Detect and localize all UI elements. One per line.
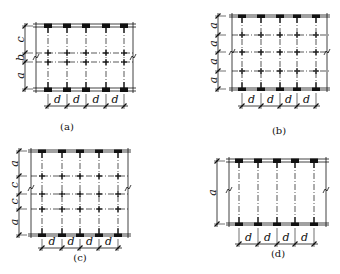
panel-d: adddd(d) xyxy=(206,157,329,259)
dimension-label-vertical: a xyxy=(207,58,220,65)
beam-block xyxy=(95,234,103,238)
panel-caption: (c) xyxy=(73,252,87,263)
beam-block xyxy=(63,88,71,93)
dimension-label-vertical: a xyxy=(8,219,21,226)
dimension-label-vertical: c xyxy=(8,198,21,204)
beam-block xyxy=(114,234,122,238)
panel-caption: (d) xyxy=(271,248,285,259)
dimension-label-vertical: a xyxy=(14,72,27,79)
dimension-label-vertical: a xyxy=(207,77,220,84)
beam-block xyxy=(257,88,265,92)
panel-caption: (a) xyxy=(60,121,74,132)
dimension-label-horizontal: d xyxy=(285,93,292,106)
dimension-label-horizontal: d xyxy=(267,93,274,106)
dimension-label-horizontal: d xyxy=(245,231,252,244)
beam-block xyxy=(273,223,281,227)
beam-block xyxy=(38,234,46,238)
floor-plan-diagrams: cbadddd(a)aaaadddd(b)accadddd(c)adddd(d) xyxy=(0,0,340,274)
dimension-label-horizontal: d xyxy=(248,93,255,106)
beam-block xyxy=(238,88,246,92)
panel-c: accadddd(c) xyxy=(8,148,131,263)
dimension-label-horizontal: d xyxy=(54,93,61,106)
panel-caption: (b) xyxy=(272,125,286,136)
dimension-label-vertical: b xyxy=(14,54,27,61)
dimension-label-horizontal: d xyxy=(105,235,112,248)
beam-block xyxy=(120,88,128,93)
dimension-label-vertical: a xyxy=(207,22,220,29)
dimension-label-horizontal: d xyxy=(48,235,55,248)
beam-block xyxy=(82,88,90,93)
dimension-label-horizontal: d xyxy=(301,231,308,244)
dimension-label-horizontal: d xyxy=(73,93,80,106)
dimension-label-horizontal: d xyxy=(303,93,310,106)
beam-block xyxy=(102,88,110,93)
dimension-label-vertical: a xyxy=(8,160,21,167)
beam-block xyxy=(58,234,66,238)
diagram-stage: cbadddd(a)aaaadddd(b)accadddd(c)adddd(d) xyxy=(0,0,340,274)
dimension-label-vertical: a xyxy=(207,40,220,47)
beam-block xyxy=(76,234,84,238)
beam-block xyxy=(254,223,262,227)
dimension-label-horizontal: d xyxy=(86,235,93,248)
dimension-label-horizontal: d xyxy=(282,231,289,244)
beam-block xyxy=(291,223,299,227)
dimension-label-horizontal: d xyxy=(111,93,118,106)
beam-block xyxy=(310,223,318,227)
dimension-label-horizontal: d xyxy=(264,231,271,244)
beam-block xyxy=(44,88,52,93)
beam-block xyxy=(235,223,243,227)
dimension-label-vertical: a xyxy=(206,189,219,196)
beam-block xyxy=(276,88,284,92)
beam-block xyxy=(312,88,320,92)
panel-a: cbadddd(a) xyxy=(14,22,136,132)
beam-block xyxy=(293,88,301,92)
dimension-label-vertical: c xyxy=(8,182,21,188)
dimension-label-horizontal: d xyxy=(67,235,74,248)
dimension-label-horizontal: d xyxy=(92,93,99,106)
dimension-label-vertical: c xyxy=(14,36,27,42)
panel-b: aaaadddd(b) xyxy=(207,13,330,136)
